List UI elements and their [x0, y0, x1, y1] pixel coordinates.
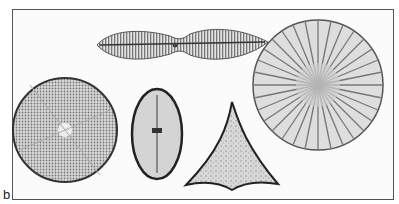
diatom-elliptical-center [132, 89, 182, 179]
diatom-illustration [0, 0, 399, 204]
diatom-pennate-top [97, 29, 268, 59]
diatom-centric-left [13, 78, 117, 182]
diatom-centric-right [253, 20, 383, 150]
